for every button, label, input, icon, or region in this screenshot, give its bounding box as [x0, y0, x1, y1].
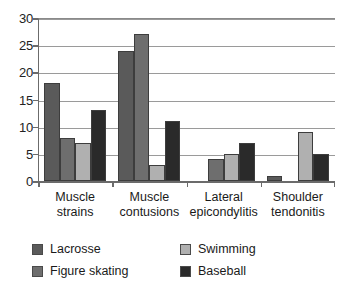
x-label-line-2: strains — [55, 205, 95, 220]
x-label-line-2: epicondylitis — [190, 205, 258, 220]
legend-entry[interactable]: Baseball — [180, 265, 246, 278]
bar — [149, 165, 165, 181]
y-axis-tick-label: 0 — [26, 175, 33, 188]
bar — [208, 159, 224, 181]
bar — [134, 34, 150, 181]
x-axis-tickmark — [187, 182, 189, 187]
y-axis-tickmark — [33, 18, 38, 20]
legend-color-swatch — [180, 244, 191, 255]
bar — [298, 132, 314, 181]
legend-entry[interactable]: Lacrosse — [32, 243, 101, 256]
y-axis-tick-label: 15 — [19, 93, 33, 106]
bar — [239, 143, 255, 181]
x-label-line-1: Muscle — [130, 190, 170, 204]
plot-region: 051015202530 MusclestrainsMusclecontusio… — [0, 0, 349, 200]
x-axis-category-labels: MusclestrainsMusclecontusionsLateralepic… — [38, 190, 335, 230]
chart-legend: LacrosseSwimmingFigure skatingBaseball — [32, 243, 332, 285]
legend-color-swatch — [180, 266, 191, 277]
bar — [118, 51, 134, 181]
bar — [313, 154, 329, 181]
y-axis-tickmark — [33, 100, 38, 102]
x-label-line-1: Shoulder — [273, 190, 323, 204]
bar — [44, 83, 60, 181]
y-axis-tick-label: 5 — [26, 147, 33, 160]
legend-label: Baseball — [198, 265, 246, 278]
x-axis-tickmark — [38, 182, 40, 187]
legend-label: Lacrosse — [50, 243, 101, 256]
x-axis-category-label: Musclestrains — [55, 190, 95, 220]
x-label-line-1: Muscle — [55, 190, 95, 204]
bars-layer — [38, 18, 335, 181]
x-axis-tickmark — [112, 182, 114, 187]
x-label-line-1: Lateral — [205, 190, 243, 204]
x-label-line-2: tendonitis — [271, 205, 325, 220]
x-axis-tickmark — [334, 182, 336, 187]
legend-label: Figure skating — [50, 265, 129, 278]
legend-entry[interactable]: Figure skating — [32, 265, 129, 278]
y-axis-tick-label: 20 — [19, 66, 33, 79]
grouped-bar-chart: 051015202530 MusclestrainsMusclecontusio… — [0, 0, 349, 290]
x-axis-category-label: Lateralepicondylitis — [190, 190, 258, 220]
y-axis-tickmark — [33, 154, 38, 156]
y-axis-tickmark — [33, 45, 38, 47]
y-axis-tickmark — [33, 127, 38, 129]
bar — [165, 121, 181, 181]
x-axis-category-label: Musclecontusions — [119, 190, 179, 220]
legend-color-swatch — [32, 244, 43, 255]
x-label-line-2: contusions — [119, 205, 179, 220]
legend-color-swatch — [32, 266, 43, 277]
bar — [267, 176, 283, 181]
y-axis-tick-labels: 051015202530 — [0, 11, 33, 187]
bar — [75, 143, 91, 181]
y-axis-tick-label: 10 — [19, 120, 33, 133]
legend-entry[interactable]: Swimming — [180, 243, 256, 256]
legend-label: Swimming — [198, 243, 256, 256]
y-axis-tick-label: 25 — [19, 39, 33, 52]
y-axis-tick-label: 30 — [19, 12, 33, 25]
bar — [224, 154, 240, 181]
y-axis-tickmark — [33, 72, 38, 74]
bar — [60, 138, 76, 181]
x-axis-category-label: Shouldertendonitis — [271, 190, 325, 220]
bar — [91, 110, 107, 181]
x-axis-tickmark — [261, 182, 263, 187]
